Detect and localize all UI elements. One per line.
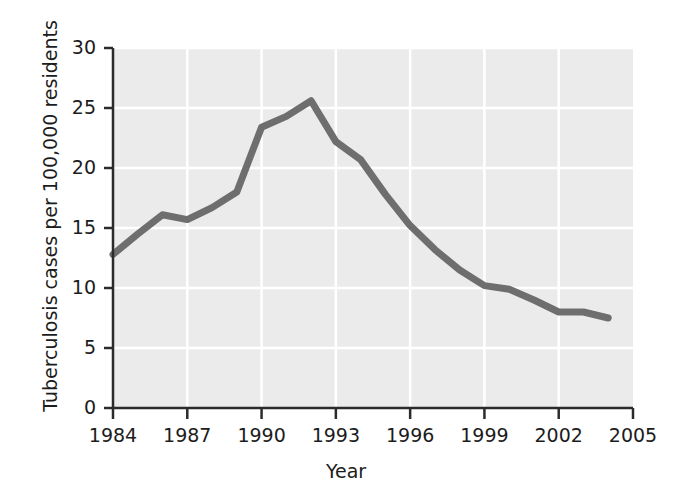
x-tick-label: 1996 [370,424,450,446]
y-tick-label: 0 [56,396,96,418]
x-tick-label: 1987 [147,424,227,446]
y-tick-label: 20 [56,156,96,178]
x-tick-label: 2002 [519,424,599,446]
y-tick-label: 30 [56,36,96,58]
x-tick-label: 1993 [296,424,376,446]
x-axis-label: Year [0,460,692,482]
x-tick-label: 1990 [222,424,302,446]
tuberculosis-line-chart: Tuberculosis cases per 100,000 residents… [0,0,692,496]
x-tick-label: 1984 [73,424,153,446]
y-tick-label: 5 [56,336,96,358]
y-tick-label: 25 [56,96,96,118]
x-tick-label: 2005 [593,424,673,446]
chart-plot-area [0,0,692,496]
y-axis-label-container: Tuberculosis cases per 100,000 residents [0,0,60,440]
x-tick-label: 1999 [444,424,524,446]
y-tick-label: 15 [56,216,96,238]
y-tick-label: 10 [56,276,96,298]
